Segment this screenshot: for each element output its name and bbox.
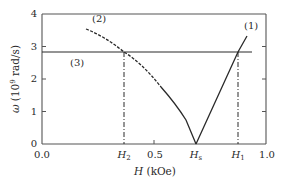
curve-label-2: (2) [92,13,106,24]
x-tick-label-h2: H2 [116,149,130,162]
dispersion-chart: 0 1 2 3 4 0.0 0.5 1.0 H2 Hs H1 H (kOe) ω… [0,0,287,184]
x-tick-label-1: 1.0 [259,149,275,160]
x-tick-label-h1: H1 [230,149,244,162]
x-tick-label-0: 0.0 [34,149,50,160]
y-tick-label-4: 4 [31,8,37,19]
y-axis-label: ω (109 rad/s) [9,45,21,113]
y-tick-label-2: 2 [31,73,37,84]
axes-frame [42,14,266,144]
curve-label-3: (3) [70,57,84,68]
y-tick-label-3: 3 [31,41,37,52]
y-tick-label-0: 0 [31,138,37,149]
x-tick-label-0-5: 0.5 [147,149,163,160]
y-tick-label-1: 1 [31,106,37,117]
x-tick-label-hs: Hs [189,149,203,162]
series-2-solid [161,87,196,144]
curve-label-1: (1) [244,20,258,31]
series-2-dashed [86,29,161,87]
x-axis-label: H (kOe) [133,165,176,177]
